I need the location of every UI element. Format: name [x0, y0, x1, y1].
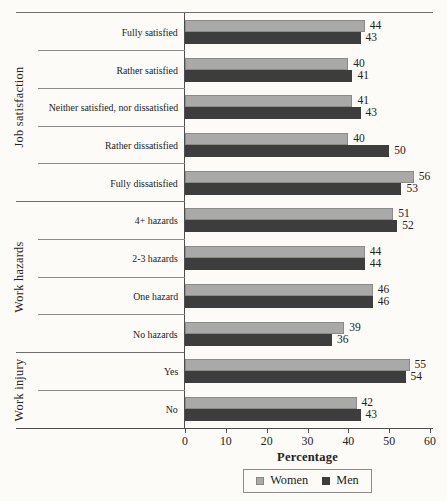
women-value-label: 56	[419, 171, 431, 183]
women-bar: 40	[185, 58, 348, 70]
women-value-label: 39	[349, 322, 361, 334]
category-label: 4+ hazards	[38, 202, 185, 240]
bar-cluster: 4646	[185, 277, 430, 315]
legend-container: WomenMen	[185, 469, 430, 493]
women-bar: 41	[185, 95, 352, 107]
group-label-column: Work injury	[0, 352, 38, 427]
men-value-label: 36	[337, 334, 349, 346]
category-label-text: 2-3 hazards	[132, 252, 178, 264]
category-row: One hazard4646	[38, 277, 447, 315]
men-bar: 43	[185, 32, 361, 44]
bar-cluster: 5554	[185, 352, 430, 390]
category-label-text: Rather dissatisfied	[105, 139, 178, 151]
x-tick-label: 0	[182, 434, 188, 449]
x-axis-title: Percentage	[185, 450, 430, 465]
men-value-label: 43	[366, 32, 378, 44]
men-bar: 41	[185, 70, 352, 82]
category-row: Rather satisfied4041	[38, 51, 447, 89]
men-swatch-icon	[322, 477, 330, 485]
women-value-label: 51	[398, 209, 410, 221]
x-axis: 0102030405060 Percentage WomenMen	[0, 428, 447, 493]
group-label: Work injury	[12, 359, 27, 422]
group-rows: Yes5554No4243	[38, 352, 447, 427]
category-label-text: Neither satisfied, nor dissatisfied	[48, 101, 178, 113]
x-tick-label: 10	[220, 434, 232, 449]
x-tick-mark	[185, 429, 186, 433]
category-row: 4+ hazards5152	[38, 202, 447, 240]
men-bar: 53	[185, 183, 401, 195]
group-label: Job satisfaction	[12, 67, 27, 148]
women-value-label: 44	[370, 20, 382, 32]
x-tick-mark	[267, 429, 268, 433]
legend-box: WomenMen	[243, 469, 372, 493]
category-label-text: Fully satisfied	[122, 26, 178, 38]
x-tick-mark	[226, 429, 227, 433]
legend-item-men: Men	[322, 473, 359, 488]
category-label: Rather satisfied	[38, 51, 185, 89]
bar-chart-figure: Job satisfactionFully satisfied4443Rathe…	[0, 0, 447, 501]
category-group: Work injuryYes5554No4243	[0, 352, 447, 427]
men-bar: 44	[185, 258, 365, 270]
women-bar: 39	[185, 322, 344, 334]
x-tick-label: 60	[424, 434, 436, 449]
men-value-label: 41	[357, 70, 369, 82]
bar-cluster: 4041	[185, 51, 430, 89]
women-bar: 44	[185, 246, 365, 258]
bar-cluster: 4243	[185, 390, 430, 428]
x-tick-label: 40	[342, 434, 354, 449]
bar-cluster: 4444	[185, 239, 430, 277]
men-bar: 36	[185, 334, 332, 346]
category-row: Neither satisfied, nor dissatisfied4143	[38, 88, 447, 126]
category-row: Rather dissatisfied4050	[38, 126, 447, 164]
x-tick-mark	[308, 429, 309, 433]
x-tick-mark	[430, 429, 431, 433]
group-label-column: Job satisfaction	[0, 13, 38, 202]
women-value-label: 55	[415, 360, 427, 372]
women-bar: 55	[185, 359, 410, 371]
men-value-label: 46	[378, 296, 390, 308]
x-axis-ticks: 0102030405060	[185, 429, 430, 449]
category-group: Job satisfactionFully satisfied4443Rathe…	[0, 13, 447, 202]
women-value-label: 40	[353, 58, 365, 70]
x-tick-label: 50	[383, 434, 395, 449]
category-label-text: Yes	[164, 365, 178, 377]
men-bar: 43	[185, 107, 361, 119]
women-value-label: 46	[378, 284, 390, 296]
men-value-label: 44	[370, 258, 382, 270]
category-label-text: Fully dissatisfied	[110, 177, 178, 189]
category-row: No4243	[38, 390, 447, 428]
category-label: Rather dissatisfied	[38, 126, 185, 164]
women-swatch-icon	[256, 477, 264, 485]
women-bar: 46	[185, 284, 373, 296]
category-row: No hazards3936	[38, 315, 447, 353]
x-tick-label: 30	[302, 434, 314, 449]
men-value-label: 50	[394, 145, 406, 157]
women-value-label: 40	[353, 133, 365, 145]
legend-label: Men	[336, 473, 359, 488]
category-label-text: One hazard	[133, 290, 178, 302]
women-bar: 40	[185, 133, 348, 145]
category-label-text: No hazards	[133, 328, 178, 340]
category-row: Fully satisfied4443	[38, 13, 447, 51]
women-value-label: 44	[370, 246, 382, 258]
category-label: Neither satisfied, nor dissatisfied	[38, 88, 185, 126]
x-tick-label: 20	[261, 434, 273, 449]
bar-cluster: 3936	[185, 315, 430, 353]
men-value-label: 43	[366, 409, 378, 421]
bar-cluster: 4143	[185, 88, 430, 126]
women-bar: 56	[185, 171, 414, 183]
men-bar: 52	[185, 220, 397, 232]
men-bar: 46	[185, 296, 373, 308]
category-row: 2-3 hazards4444	[38, 239, 447, 277]
bar-cluster: 5152	[185, 202, 430, 240]
women-bar: 51	[185, 208, 393, 220]
bar-cluster: 4443	[185, 13, 430, 51]
category-label-text: 4+ hazards	[135, 214, 178, 226]
bar-cluster: 4050	[185, 126, 430, 164]
category-row: Yes5554	[38, 352, 447, 390]
category-label: One hazard	[38, 277, 185, 315]
men-value-label: 53	[406, 183, 418, 195]
chart-rows: Job satisfactionFully satisfied4443Rathe…	[0, 13, 447, 428]
category-label-text: Rather satisfied	[116, 64, 178, 76]
category-label: Fully satisfied	[38, 13, 185, 51]
